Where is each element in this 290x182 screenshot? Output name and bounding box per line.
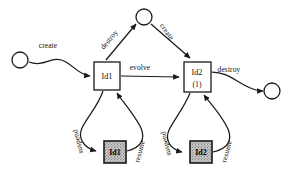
node-state-id2[interactable]: Id2 (1) [184,62,211,92]
edge-label-suspend-2: suspend [158,130,173,156]
node-label-suspended-id2: Id2 [195,148,207,157]
diagram-canvas: create destroy create evolve destroy sus… [0,0,290,182]
edge-evolve: evolve [121,63,179,77]
node-label-suspended-id1: Id1 [109,148,121,157]
node-suspended-id1[interactable]: Id1 [104,141,126,163]
edge-suspend-1: suspend [70,91,103,155]
node-end-circle[interactable] [264,83,280,99]
node-suspended-id2[interactable]: Id2 [190,141,212,163]
node-start-circle[interactable] [12,52,28,68]
edge-label-destroy-end: destroy [218,65,241,74]
edge-create-top: create [151,21,190,58]
edge-label-resume-2: resume [219,139,234,163]
edge-label-evolve: evolve [130,63,151,72]
edge-destroy-end: destroy [212,65,263,91]
lifecycle-diagram: create destroy create evolve destroy sus… [0,0,290,182]
edge-suspend-2: suspend [158,93,190,157]
edge-create-start: create [29,41,90,76]
node-sublabel-id2: (1) [193,80,202,89]
edge-label-resume-1: resume [132,139,147,163]
node-top-circle[interactable] [136,9,152,25]
edge-destroy-top: destroy [98,24,136,60]
node-label-id2: Id2 [192,68,203,77]
node-state-id1[interactable]: Id1 [94,62,120,90]
edge-label-create-start: create [39,41,58,50]
node-label-id1: Id1 [102,72,113,81]
